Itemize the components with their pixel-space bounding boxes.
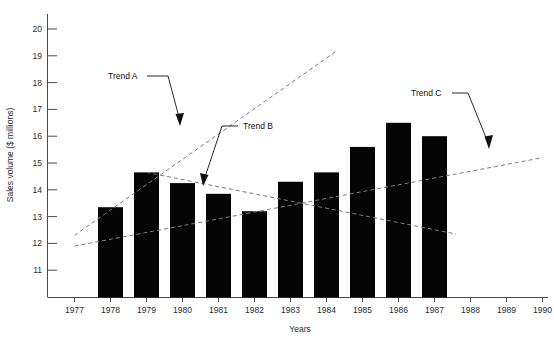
- annotation-trend-a: Trend A: [108, 71, 184, 126]
- trend-b-label: Trend B: [243, 121, 273, 131]
- bar-1983: [314, 172, 339, 297]
- y-tick-label-11: 11: [33, 265, 42, 275]
- chart-container: 20 19 18 17 16 15 14 13 12 11 Sales volu…: [0, 0, 554, 338]
- annotation-trend-b: Trend B: [200, 121, 273, 186]
- x-tick-label-1979: 1979: [137, 305, 156, 315]
- bar-chart-plot: 20 19 18 17 16 15 14 13 12 11 Sales volu…: [0, 0, 554, 338]
- y-tick-label-20: 20: [33, 24, 43, 34]
- y-axis-ticks: [48, 29, 58, 270]
- x-tick-label-1984: 1984: [317, 305, 336, 315]
- bars-group: [98, 123, 447, 298]
- y-tick-label-18: 18: [33, 78, 43, 88]
- y-tick-label-17: 17: [33, 104, 43, 114]
- bar-1977: [98, 207, 123, 297]
- bar-1980: [206, 194, 231, 298]
- x-tick-label-1986: 1986: [389, 305, 408, 315]
- y-tick-label-14: 14: [33, 185, 43, 195]
- y-tick-label-12: 12: [33, 238, 43, 248]
- x-tick-label-1983: 1983: [281, 305, 300, 315]
- trend-a-arrowhead: [176, 113, 185, 126]
- trend-c-label: Trend C: [411, 88, 441, 98]
- y-tick-label-19: 19: [33, 51, 43, 61]
- bar-1982: [278, 182, 303, 298]
- trend-c-leader-line: [452, 93, 487, 140]
- bar-1985: [386, 123, 411, 298]
- x-tick-label-1982: 1982: [245, 305, 264, 315]
- trend-b-leader-line: [205, 126, 238, 177]
- x-axis-tick-labels: 1977 1978 1979 1980 1981 1982 1983 1984 …: [65, 305, 552, 315]
- bar-1984: [350, 147, 375, 298]
- bar-1979: [170, 183, 195, 297]
- y-axis-tick-labels: 20 19 18 17 16 15 14 13 12 11: [33, 24, 43, 275]
- x-axis-title: Years: [289, 324, 310, 334]
- x-tick-label-1987: 1987: [425, 305, 444, 315]
- x-axis-ticks: [75, 298, 543, 303]
- trend-a-label: Trend A: [108, 71, 138, 81]
- y-tick-label-15: 15: [33, 158, 43, 168]
- x-tick-label-1980: 1980: [173, 305, 192, 315]
- x-tick-label-1981: 1981: [209, 305, 228, 315]
- bar-1986: [422, 136, 447, 297]
- y-tick-label-16: 16: [33, 131, 43, 141]
- trend-a-leader-line: [147, 76, 179, 117]
- x-tick-label-1978: 1978: [101, 305, 120, 315]
- x-tick-label-1990: 1990: [533, 305, 552, 315]
- trend-c-arrowhead: [485, 135, 494, 149]
- x-tick-label-1985: 1985: [353, 305, 372, 315]
- x-tick-label-1977: 1977: [65, 305, 84, 315]
- y-axis-title: Sales volume ($ millions): [5, 108, 15, 203]
- x-tick-label-1989: 1989: [497, 305, 516, 315]
- y-tick-label-13: 13: [33, 212, 43, 222]
- x-tick-label-1988: 1988: [461, 305, 480, 315]
- bar-1981: [242, 211, 267, 297]
